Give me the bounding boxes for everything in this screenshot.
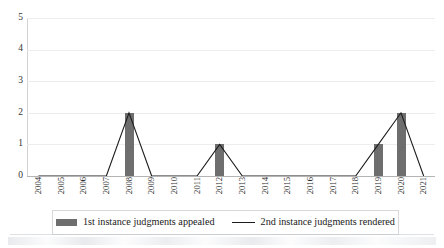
scan-artifact-smudge: [8, 237, 436, 245]
x-tick-label: 2012: [215, 177, 224, 211]
line-series: [27, 18, 435, 176]
legend-label: 1st instance judgments appealed: [83, 217, 215, 227]
y-tick-label: 3: [10, 76, 23, 86]
x-tick-label: 2018: [351, 177, 360, 211]
x-tick-label: 2007: [102, 177, 111, 211]
chart-legend: 1st instance judgments appealed 2nd inst…: [52, 210, 399, 235]
legend-label: 2nd instance judgments rendered: [261, 217, 395, 227]
legend-item-line: 2nd instance judgments rendered: [232, 217, 395, 227]
scan-artifact-line: [10, 234, 434, 235]
y-tick-label: 0: [10, 171, 23, 181]
y-tick-label: 4: [10, 44, 23, 54]
chart-container: 5 4 3 2 1 0 2004200520062007200820092010…: [0, 0, 444, 248]
y-tick-label: 2: [10, 108, 23, 118]
x-tick-label: 2014: [261, 177, 270, 211]
x-tick-label: 2005: [57, 177, 66, 211]
x-tick-label: 2010: [170, 177, 179, 211]
x-tick-label: 2004: [34, 177, 43, 211]
plot-area: [27, 18, 435, 176]
x-tick-label: 2021: [419, 177, 428, 211]
x-tick-label: 2020: [397, 177, 406, 211]
x-tick-label: 2011: [193, 177, 202, 211]
line-sample-icon: [232, 222, 255, 223]
x-tick-label: 2016: [306, 177, 315, 211]
x-tick-label: 2006: [79, 177, 88, 211]
y-tick-label: 5: [10, 13, 23, 23]
x-tick-label: 2013: [238, 177, 247, 211]
x-tick-label: 2015: [283, 177, 292, 211]
x-tick-label: 2009: [147, 177, 156, 211]
bar-swatch-icon: [56, 219, 77, 226]
x-axis-labels: 2004200520062007200820092010201120122013…: [27, 177, 435, 211]
x-tick-label: 2008: [125, 177, 134, 211]
y-tick-label: 1: [10, 139, 23, 149]
x-tick-label: 2017: [329, 177, 338, 211]
x-tick-label: 2019: [374, 177, 383, 211]
legend-item-bar: 1st instance judgments appealed: [56, 217, 215, 227]
